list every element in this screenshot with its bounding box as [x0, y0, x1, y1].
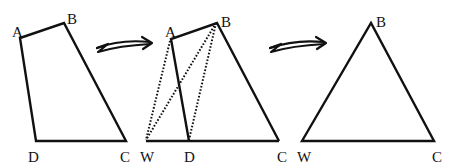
diagram-canvas: A B C D A B C D W B W C	[0, 0, 457, 168]
label-b: B	[67, 11, 77, 27]
dotted-segment-bw	[146, 23, 216, 140]
label-d: D	[28, 149, 39, 165]
label-d: D	[184, 149, 195, 165]
panel-construction: A B C D W	[140, 14, 287, 165]
panel-triangle: B W C	[297, 14, 442, 165]
panel-quadrilateral: A B C D	[12, 11, 130, 165]
label-c: C	[277, 149, 287, 165]
dotted-segment-aw	[146, 41, 170, 140]
quadrilateral-abcd	[20, 23, 126, 141]
quadrilateral-outline	[171, 23, 279, 141]
label-a: A	[165, 24, 176, 40]
label-w: W	[297, 149, 312, 165]
transform-arrow-icon	[270, 37, 326, 52]
label-b: B	[376, 14, 386, 30]
label-c: C	[432, 149, 442, 165]
label-b: B	[221, 14, 231, 30]
label-a: A	[12, 24, 23, 40]
label-c: C	[120, 149, 130, 165]
transform-arrow-icon	[97, 37, 152, 52]
label-w: W	[140, 149, 155, 165]
dotted-segment-bd	[189, 23, 216, 140]
